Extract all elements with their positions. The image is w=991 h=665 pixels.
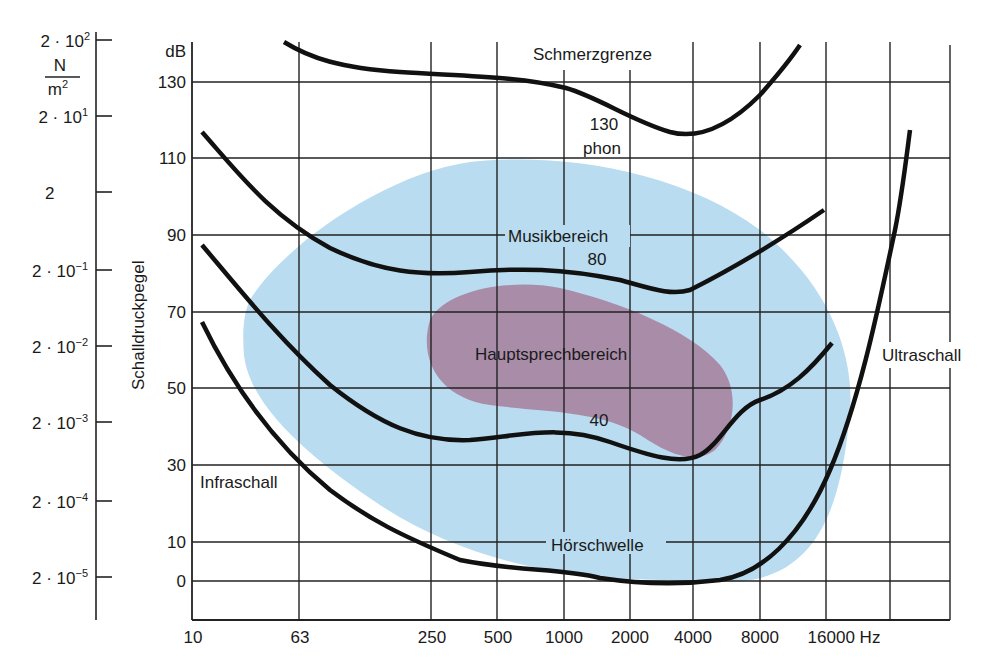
hearing-area-chart: dB 130 110 90 70 50 30 10 0 Schalldruckp… xyxy=(0,0,991,665)
x-tick: 2000 xyxy=(611,628,649,647)
pressure-tick: 2 · 10−4 xyxy=(32,491,88,512)
pressure-tick: 2 · 10−2 xyxy=(32,336,88,357)
y-tick: 50 xyxy=(167,379,186,398)
db-axis-ticks: dB 130 110 90 70 50 30 10 0 xyxy=(158,42,186,591)
label-80: 80 xyxy=(588,250,607,269)
x-tick: 8000 xyxy=(741,628,779,647)
y-tick: 0 xyxy=(177,572,186,591)
db-unit-label: dB xyxy=(165,42,186,61)
pressure-tick: 2 · 10−1 xyxy=(32,260,88,281)
label-40: 40 xyxy=(590,411,609,430)
frequency-axis-ticks: 10 63 250 500 1000 2000 4000 8000 16000 … xyxy=(184,628,881,647)
y-tick: 90 xyxy=(167,226,186,245)
x-tick: 500 xyxy=(484,628,512,647)
label-infraschall: Infraschall xyxy=(200,473,277,492)
pressure-unit-denominator: m2 xyxy=(48,78,68,99)
x-tick: 16000 Hz xyxy=(808,628,881,647)
pressure-tick: 2 · 10−3 xyxy=(32,412,88,433)
label-130: 130 xyxy=(590,115,618,134)
pressure-unit-numerator: N xyxy=(54,56,66,75)
x-tick: 4000 xyxy=(674,628,712,647)
pressure-tick: 2 xyxy=(45,184,54,203)
label-schmerzgrenze: Schmerzgrenze xyxy=(533,45,652,64)
y-tick: 70 xyxy=(167,303,186,322)
label-ultraschall: Ultraschall xyxy=(882,346,961,365)
x-tick: 10 xyxy=(184,628,203,647)
label-phon: phon xyxy=(583,139,621,158)
y-tick: 130 xyxy=(158,73,186,92)
x-tick: 1000 xyxy=(545,628,583,647)
label-musikbereich: Musikbereich xyxy=(508,227,608,246)
y-tick: 10 xyxy=(167,533,186,552)
pressure-tick: 2 · 10−5 xyxy=(32,567,88,588)
pressure-tick: 2 · 101 xyxy=(38,106,88,127)
x-tick: 250 xyxy=(418,628,446,647)
y-axis-title: Schalldruckpegel xyxy=(129,261,148,390)
y-tick: 30 xyxy=(167,456,186,475)
label-hauptsprechbereich: Hauptsprechbereich xyxy=(475,345,627,364)
label-hoerschwelle: Hörschwelle xyxy=(551,536,644,555)
y-tick: 110 xyxy=(159,149,186,168)
pressure-axis: 2 · 102 2 · 101 2 2 · 10−1 2 · 10−2 2 · … xyxy=(32,30,112,620)
pressure-tick: 2 · 102 xyxy=(40,30,90,51)
x-tick: 63 xyxy=(291,628,310,647)
